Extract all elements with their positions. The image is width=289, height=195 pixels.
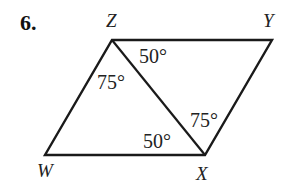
angle-label-wzx: 75° <box>97 72 125 92</box>
vertex-label-z: Z <box>106 10 117 32</box>
angle-label-zxy: 75° <box>190 110 218 130</box>
angle-label-wxz: 50° <box>143 131 171 151</box>
angle-label-yzx: 50° <box>139 46 167 66</box>
vertex-label-w: W <box>37 160 53 182</box>
vertex-label-x: X <box>196 163 208 185</box>
problem-number: 6. <box>20 10 37 36</box>
vertex-label-y: Y <box>263 10 274 32</box>
